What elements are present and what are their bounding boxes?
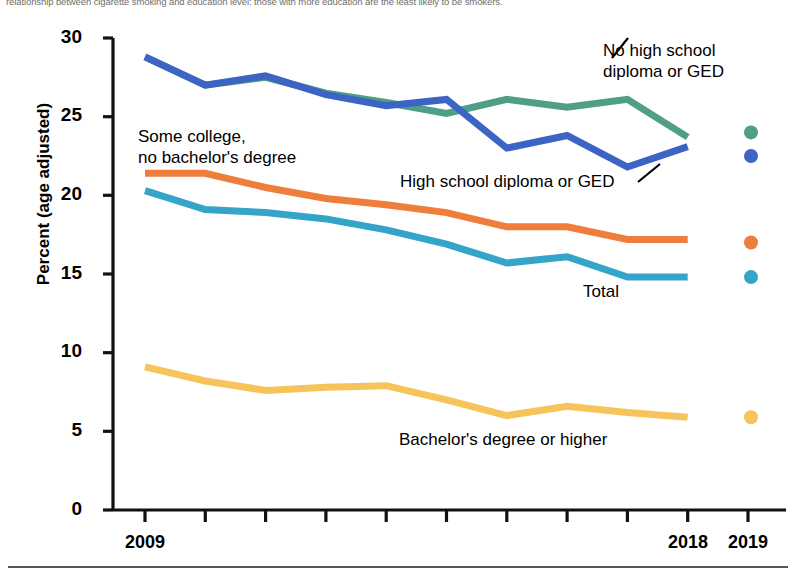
x-tick-2019: 2019 bbox=[713, 532, 783, 553]
annotation-bachelors: Bachelor's degree or higher bbox=[399, 429, 607, 450]
annotation-total: Total bbox=[583, 281, 619, 302]
annotation-some-college: Some college, no bachelor's degree bbox=[138, 126, 296, 168]
leader-line-1 bbox=[638, 164, 660, 182]
clipped-caption-strip: relationship between cigarette smoking a… bbox=[0, 0, 796, 12]
marker-2019-3 bbox=[744, 270, 758, 284]
y-tick-15: 15 bbox=[30, 262, 82, 284]
chart-canvas bbox=[0, 14, 796, 562]
marker-2019-4 bbox=[744, 410, 758, 424]
annotation-no-high-school: No high school diploma or GED bbox=[603, 40, 724, 82]
y-tick-0: 0 bbox=[30, 498, 82, 520]
annotation-high-school: High school diploma or GED bbox=[400, 171, 614, 192]
y-tick-5: 5 bbox=[30, 419, 82, 441]
marker-2019-1 bbox=[744, 149, 758, 163]
y-tick-30: 30 bbox=[30, 26, 82, 48]
caption-text: relationship between cigarette smoking a… bbox=[6, 0, 796, 7]
bottom-divider-rule bbox=[8, 566, 788, 568]
series-line-4 bbox=[145, 367, 688, 417]
marker-2019-0 bbox=[744, 125, 758, 139]
chart-page: relationship between cigarette smoking a… bbox=[0, 0, 796, 584]
y-tick-20: 20 bbox=[30, 183, 82, 205]
y-tick-25: 25 bbox=[30, 104, 82, 126]
x-tick-2009: 2009 bbox=[110, 532, 180, 553]
marker-2019-2 bbox=[744, 236, 758, 250]
marker-2019-layer bbox=[744, 125, 758, 424]
series-layer bbox=[145, 57, 688, 417]
line-chart: Percent (age adjusted) 30 25 20 15 10 5 … bbox=[0, 14, 796, 562]
y-tick-10: 10 bbox=[30, 340, 82, 362]
